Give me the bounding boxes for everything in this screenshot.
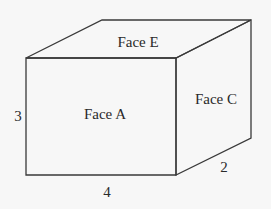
length-label: 4 xyxy=(103,184,111,200)
face-a-label: Face A xyxy=(84,106,126,122)
face-c-label: Face C xyxy=(195,91,237,107)
depth-label: 2 xyxy=(220,159,228,175)
prism-diagram: Face E Face A Face C 3 4 2 xyxy=(0,0,271,209)
height-label: 3 xyxy=(14,108,22,124)
face-e-label: Face E xyxy=(117,34,158,50)
